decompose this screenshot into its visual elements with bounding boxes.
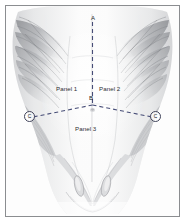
vertex-label-b: B (89, 95, 93, 101)
panel-label-3: Panel 3 (75, 125, 96, 132)
figure-frame: A B C C Panel 1 Panel 2 Panel 3 (0, 0, 185, 222)
umbilicus (90, 108, 95, 112)
vertex-label-c-left: C (24, 111, 35, 122)
panel-label-1: Panel 1 (56, 85, 77, 92)
panel-label-2: Panel 2 (99, 85, 120, 92)
vertex-label-c-right: C (150, 111, 161, 122)
vertex-label-a: A (91, 15, 95, 21)
